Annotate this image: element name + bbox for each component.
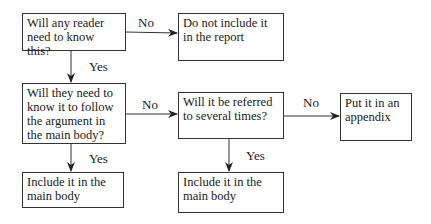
edge-label-q3-no: No: [303, 96, 319, 110]
node-text: Include it in the main body: [27, 175, 106, 203]
node-text: Will it be referred to several times?: [183, 95, 272, 123]
edge-label-q2-no: No: [142, 98, 158, 112]
node-put-in-appendix: Put it in an appendix: [340, 93, 412, 141]
edge-label-q1-yes: Yes: [89, 60, 108, 74]
edge-label-q3-yes: Yes: [246, 149, 265, 163]
node-include-main-body-1: Include it in the main body: [22, 172, 124, 208]
node-q3-referred-several-times: Will it be referred to several times?: [178, 92, 284, 139]
node-text: Include it in the main body: [183, 175, 262, 203]
node-q1-any-reader: Will any reader need to know this?: [22, 13, 126, 51]
node-do-not-include: Do not include it in the report: [178, 13, 284, 61]
edge-label-q2-yes: Yes: [89, 152, 108, 166]
node-text: Put it in an appendix: [345, 96, 400, 124]
arrow-q1-no: [125, 32, 177, 33]
node-q2-follow-argument: Will they need to know it to follow the …: [22, 83, 126, 144]
node-include-main-body-2: Include it in the main body: [178, 172, 284, 213]
edge-label-q1-no: No: [138, 16, 154, 30]
node-text: Will they need to know it to follow the …: [27, 86, 113, 142]
node-text: Do not include it in the report: [183, 16, 267, 44]
